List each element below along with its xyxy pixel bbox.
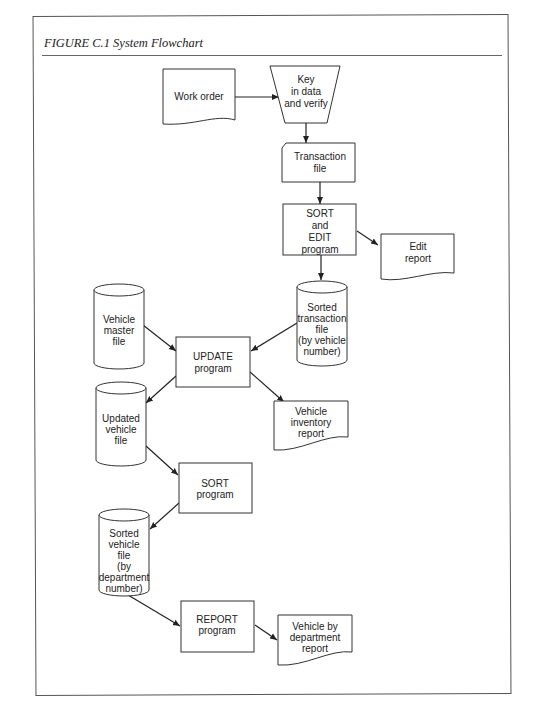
edge-update-to-inventory-report <box>250 372 284 402</box>
svg-text:(by vehicle: (by vehicle <box>298 335 346 346</box>
edge-sort-edit-to-edit-report <box>357 231 378 245</box>
svg-text:SORT: SORT <box>201 478 229 489</box>
svg-text:file: file <box>115 435 128 446</box>
node-sorted-transaction-file: Sorted transaction file (by vehicle numb… <box>297 281 347 366</box>
svg-text:department: department <box>290 632 341 643</box>
svg-text:Vehicle: Vehicle <box>103 314 136 325</box>
svg-text:vehicle: vehicle <box>105 424 137 435</box>
node-key-in: Key in data and verify <box>270 66 340 123</box>
svg-text:vehicle: vehicle <box>108 539 140 550</box>
node-label: Work order <box>174 91 224 102</box>
svg-text:program: program <box>196 489 233 500</box>
svg-text:Vehicle by: Vehicle by <box>292 621 338 632</box>
flowchart: Work order Key in data and verify Transa… <box>0 0 547 711</box>
edge-report-to-dept-report <box>255 625 277 640</box>
node-sort-edit-program: SORT and EDIT program <box>283 204 356 255</box>
svg-text:and: and <box>312 220 329 231</box>
svg-text:Transaction: Transaction <box>294 151 346 162</box>
svg-text:program: program <box>301 244 338 255</box>
svg-text:number): number) <box>303 346 340 357</box>
edge-update-to-updated-vehicle <box>146 376 176 403</box>
svg-text:SORT: SORT <box>306 208 334 219</box>
edge-sort-to-sorted-vehicle <box>150 503 179 529</box>
node-update-program: UPDATE program <box>176 337 250 387</box>
svg-text:Updated: Updated <box>102 413 140 424</box>
svg-text:department: department <box>99 572 150 583</box>
edge-updated-vehicle-to-sort <box>146 446 178 475</box>
svg-text:number): number) <box>105 583 142 594</box>
svg-text:Vehicle: Vehicle <box>295 406 328 417</box>
svg-text:transaction: transaction <box>298 313 347 324</box>
svg-text:and verify: and verify <box>284 98 327 109</box>
svg-text:report: report <box>302 643 328 654</box>
node-sorted-vehicle-file: Sorted vehicle file (by department numbe… <box>99 509 150 596</box>
svg-text:report: report <box>405 253 431 264</box>
svg-text:program: program <box>198 625 235 636</box>
edge-vehicle-master-to-update <box>143 325 176 351</box>
node-vehicle-inventory-report: Vehicle inventory report <box>274 401 348 450</box>
svg-text:inventory: inventory <box>291 417 332 428</box>
node-vehicle-by-department-report: Vehicle by department report <box>278 615 352 665</box>
node-vehicle-master-file: Vehicle master file <box>94 284 144 369</box>
node-work-order: Work order <box>163 69 235 124</box>
node-transaction-file: Transaction file <box>282 143 355 182</box>
node-report-program: REPORT program <box>181 601 254 652</box>
svg-text:Edit: Edit <box>409 241 426 252</box>
svg-text:Sorted: Sorted <box>109 528 138 539</box>
svg-text:Key: Key <box>297 74 314 85</box>
svg-text:(by: (by <box>117 561 131 572</box>
svg-text:report: report <box>298 428 324 439</box>
svg-text:file: file <box>113 336 126 347</box>
svg-text:file: file <box>314 163 327 174</box>
edge-sorted-transaction-to-update <box>251 323 297 351</box>
svg-text:EDIT: EDIT <box>309 232 332 243</box>
svg-text:UPDATE: UPDATE <box>193 351 233 362</box>
svg-text:file: file <box>316 324 329 335</box>
svg-text:REPORT: REPORT <box>196 614 238 625</box>
node-edit-report: Edit report <box>381 234 454 280</box>
svg-text:Sorted: Sorted <box>307 302 336 313</box>
svg-text:master: master <box>104 325 135 336</box>
svg-text:file: file <box>118 550 131 561</box>
svg-text:program: program <box>194 363 231 374</box>
edge-sorted-vehicle-to-report <box>128 595 180 626</box>
node-sort-program: SORT program <box>179 463 252 513</box>
node-updated-vehicle-file: Updated vehicle file <box>96 382 146 466</box>
svg-text:in data: in data <box>291 86 321 97</box>
